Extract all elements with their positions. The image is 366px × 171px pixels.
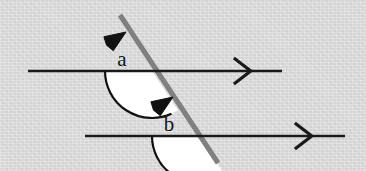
geometry-figure: a b — [0, 0, 366, 171]
geometry-canvas: a b — [0, 0, 366, 171]
angle-b-label: b — [164, 112, 175, 136]
angle-a-label: a — [117, 47, 127, 71]
angle-a-sector — [105, 71, 178, 118]
